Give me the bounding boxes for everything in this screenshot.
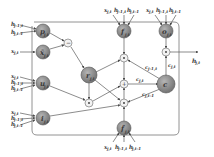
svg-text:−: − bbox=[66, 39, 71, 46]
input-labels-f-top: x j,t h j-1,t h j,t-1 bbox=[103, 7, 139, 14]
svg-text:j,t: j,t bbox=[89, 76, 95, 81]
input-labels-p: h j-1,t h j,t-1 bbox=[11, 21, 23, 36]
svg-text:j-1,t: j-1,t bbox=[13, 23, 23, 28]
output-label-h: h j,t bbox=[192, 57, 200, 65]
svg-text:j,t: j,t bbox=[170, 64, 176, 69]
node-f-tilde: f̃ j,t bbox=[117, 121, 131, 135]
svg-text:j,t-1: j,t-1 bbox=[144, 93, 154, 98]
svg-text:j,t: j,t bbox=[13, 50, 19, 55]
svg-text:+: + bbox=[122, 80, 127, 87]
svg-text:j,t-1: j,t-1 bbox=[129, 9, 139, 14]
svg-text:j,t: j,t bbox=[43, 53, 49, 58]
node-x-tilde: x̃ j,t bbox=[36, 45, 50, 59]
node-u: u j,t bbox=[36, 76, 50, 90]
svg-text:j-1,t: j-1,t bbox=[147, 66, 157, 71]
node-p: p j,t bbox=[36, 24, 50, 38]
op-mult-forget bbox=[120, 54, 128, 62]
svg-text:j,t: j,t bbox=[43, 32, 49, 37]
svg-text:j,t: j,t bbox=[166, 32, 172, 37]
edge-label-c-jt: c j,t bbox=[136, 76, 144, 83]
op-plus: + bbox=[120, 80, 128, 88]
svg-text:j,t: j,t bbox=[138, 78, 144, 83]
svg-text:j,t-1: j,t-1 bbox=[171, 9, 181, 14]
svg-text:j-1,t: j-1,t bbox=[116, 9, 126, 14]
gated-cell-diagram: p j,t x̃ j,t u j,t i j,t r j,t f j,t o j… bbox=[0, 0, 214, 157]
op-mult-output bbox=[162, 48, 170, 56]
input-labels-f-bottom: x j,t h j-1,t h j,t-1 bbox=[103, 144, 141, 151]
input-labels-x-tilde: x j,t bbox=[10, 48, 19, 55]
op-minus: − bbox=[64, 39, 72, 47]
input-labels-u: x j,t h j-1,t h j,t-1 bbox=[10, 73, 23, 92]
node-f: f j,t bbox=[117, 24, 131, 38]
node-r: r j,t bbox=[81, 67, 97, 83]
svg-text:j-1,t: j-1,t bbox=[158, 9, 168, 14]
op-mult-forget2 bbox=[120, 99, 128, 107]
cell-frame bbox=[32, 22, 179, 135]
svg-text:j,t-1: j,t-1 bbox=[13, 31, 23, 36]
svg-text:j,t: j,t bbox=[195, 60, 201, 65]
node-o: o j,t bbox=[159, 24, 173, 38]
svg-text:j,t: j,t bbox=[43, 119, 49, 124]
node-i: i j,t bbox=[36, 111, 50, 125]
input-labels-o: x j,t h j-1,t h j,t-1 bbox=[145, 7, 181, 14]
svg-text:j,t-1: j,t-1 bbox=[13, 123, 23, 128]
svg-text:j,t: j,t bbox=[106, 9, 112, 14]
input-labels-i: x j,t h j-1,t h j,t-1 bbox=[10, 109, 23, 128]
svg-text:j,t: j,t bbox=[124, 129, 130, 134]
svg-text:j,t: j,t bbox=[106, 146, 112, 151]
op-mult-input bbox=[85, 99, 93, 107]
svg-text:j,t-1: j,t-1 bbox=[131, 146, 141, 151]
edge-label-c-jt-1: c j,t-1 bbox=[142, 91, 154, 98]
svg-text:j,t: j,t bbox=[148, 9, 154, 14]
svg-text:j-1,t: j-1,t bbox=[117, 146, 127, 151]
edge-label-c-out: c j,t bbox=[168, 62, 176, 69]
svg-text:j,t: j,t bbox=[124, 32, 130, 37]
svg-text:c: c bbox=[163, 80, 168, 89]
node-c: c bbox=[157, 75, 175, 93]
svg-text:j,t-1: j,t-1 bbox=[13, 87, 23, 92]
svg-text:j,t: j,t bbox=[43, 84, 49, 89]
edge-label-c-j-1: c j-1,t bbox=[145, 64, 157, 71]
